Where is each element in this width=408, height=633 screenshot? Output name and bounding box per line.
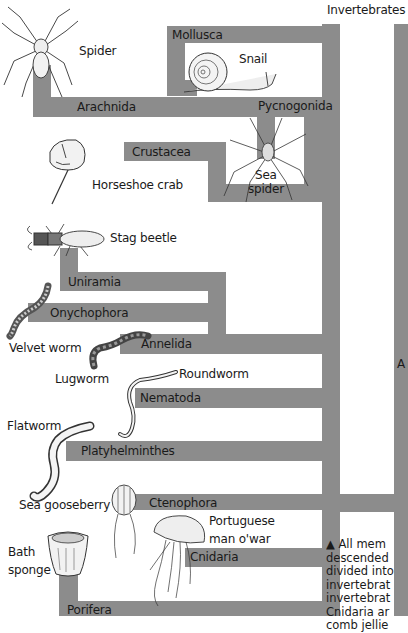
velvet-worm-icon bbox=[4, 282, 54, 338]
label-crustacea: Crustacea bbox=[132, 145, 191, 159]
caption-line: comb jellie bbox=[326, 619, 408, 633]
flatworm-icon bbox=[28, 420, 92, 504]
example-velvet-worm: Velvet worm bbox=[9, 341, 81, 356]
label-platyhelminthes: Platyhelminthes bbox=[81, 444, 175, 458]
label-onychophora: Onychophora bbox=[50, 306, 128, 320]
caption-line: invertebrat bbox=[326, 579, 408, 593]
label-arachnida: Arachnida bbox=[77, 100, 136, 114]
branch-uniramia-down bbox=[208, 272, 226, 342]
example-roundworm: Roundworm bbox=[179, 367, 249, 382]
label-porifera: Porifera bbox=[67, 603, 112, 617]
caption-line: ▲ All mem bbox=[326, 538, 408, 552]
example-spider: Spider bbox=[79, 44, 116, 59]
label-uniramia: Uniramia bbox=[68, 275, 121, 289]
roundworm-icon bbox=[118, 368, 180, 444]
example-pmow-2: man o'war bbox=[209, 532, 270, 547]
portuguese-man-o-war-icon bbox=[146, 512, 210, 608]
outer-trunk bbox=[394, 24, 408, 616]
snail-icon bbox=[180, 44, 280, 94]
caption-line: descended bbox=[326, 552, 408, 566]
sea-spider-icon bbox=[220, 112, 316, 202]
lugworm-icon bbox=[86, 330, 152, 370]
cut-off-label: A bbox=[397, 357, 405, 372]
bath-sponge-icon bbox=[44, 528, 92, 578]
caption-text: ▲ All mem descended divided into inverte… bbox=[326, 538, 408, 633]
example-stag-beetle: Stag beetle bbox=[110, 231, 177, 246]
stag-beetle-icon bbox=[22, 220, 112, 260]
caption-line: Cnidaria ar bbox=[326, 606, 408, 620]
example-pmow-1: Portuguese bbox=[209, 514, 275, 529]
spider-icon bbox=[0, 5, 80, 100]
label-ctenophora: Ctenophora bbox=[149, 496, 217, 510]
sea-gooseberry-icon bbox=[108, 484, 142, 560]
example-horseshoe-crab: Horseshoe crab bbox=[92, 178, 183, 193]
example-lugworm: Lugworm bbox=[55, 372, 109, 387]
caption-line: divided into bbox=[326, 565, 408, 579]
caption-line: invertebrat bbox=[326, 592, 408, 606]
horseshoe-crab-icon bbox=[42, 136, 90, 206]
label-mollusca: Mollusca bbox=[172, 28, 223, 42]
example-bath-1: Bath bbox=[8, 545, 35, 560]
label-pycnogonida: Pycnogonida bbox=[258, 99, 333, 113]
diagram-title: Invertebrates bbox=[327, 3, 405, 18]
